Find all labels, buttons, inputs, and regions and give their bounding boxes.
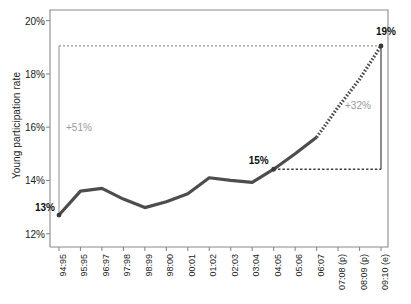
actual-line [59, 137, 317, 215]
plot-area [0, 0, 411, 304]
projection-line [317, 46, 381, 137]
chart-container: Young participation rate 12%14%16%18%20%… [0, 0, 411, 304]
growth-label-left: +51% [66, 122, 92, 133]
data-point-label: 13% [35, 202, 55, 213]
data-marker [57, 213, 62, 218]
axis-ticks [46, 21, 381, 251]
data-point-label: 19% [376, 26, 396, 37]
data-marker [271, 167, 276, 172]
data-point-label: 15% [249, 155, 269, 166]
growth-label-right: +32% [345, 100, 371, 111]
data-series [59, 46, 381, 215]
data-marker [379, 44, 384, 49]
